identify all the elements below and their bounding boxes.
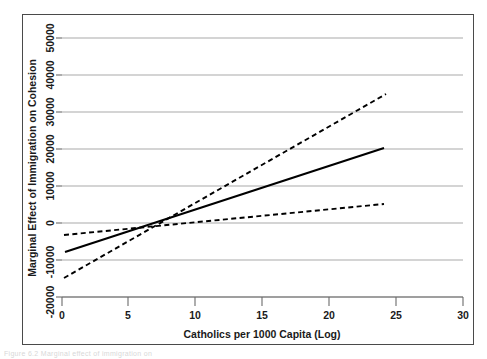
y-axis-ticks	[56, 38, 62, 297]
y-tick-label-50000: 50000	[44, 23, 56, 52]
x-tick-labels: 0 5 10 15 20 25 30	[59, 309, 469, 321]
y-tick-label-20000: 20000	[44, 134, 56, 163]
lower-confidence-bound-line	[64, 204, 384, 235]
y-tick-label-40000: 40000	[44, 60, 56, 89]
marginal-effect-line	[65, 148, 384, 252]
figure-caption-partial: Figure 6.2 Marginal effect of immigratio…	[4, 350, 254, 359]
x-tick-label-10: 10	[189, 309, 201, 321]
x-axis-ticks	[62, 297, 463, 306]
x-tick-label-30: 30	[457, 309, 469, 321]
marginal-effect-chart: 50000 40000 30000 20000 10000 0 -10000 -…	[0, 0, 487, 359]
y-tick-label-minus20000: -20000	[44, 285, 56, 318]
x-axis-title: Catholics per 1000 Capita (Log)	[184, 328, 341, 340]
x-tick-label-15: 15	[256, 309, 268, 321]
y-tick-label-30000: 30000	[44, 97, 56, 126]
y-tick-label-0: 0	[44, 220, 56, 226]
x-tick-label-0: 0	[59, 309, 65, 321]
figure-container: 50000 40000 30000 20000 10000 0 -10000 -…	[0, 0, 487, 359]
x-tick-label-20: 20	[323, 309, 335, 321]
x-tick-label-25: 25	[390, 309, 402, 321]
y-gridlines	[62, 38, 463, 297]
y-tick-label-minus10000: -10000	[44, 245, 56, 278]
y-tick-labels: 50000 40000 30000 20000 10000 0 -10000 -…	[44, 23, 56, 318]
x-tick-label-5: 5	[125, 309, 131, 321]
y-tick-label-10000: 10000	[44, 171, 56, 200]
y-axis-title: Marginal Effect of Immigration on Cohesi…	[26, 59, 38, 277]
